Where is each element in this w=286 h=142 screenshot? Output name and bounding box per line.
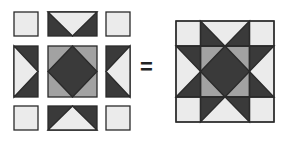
assembled-block — [176, 21, 274, 122]
exploded-block — [14, 12, 130, 130]
corner-square-bottom-right — [106, 106, 130, 130]
corner-square-bottom-left — [14, 106, 38, 130]
corner-square-top-left — [14, 12, 38, 36]
center-square-in-square — [48, 46, 97, 97]
flying-geese-right — [106, 46, 130, 97]
flying-geese-top — [48, 12, 97, 36]
equals-sign: = — [140, 56, 153, 78]
flying-geese-bottom — [48, 106, 97, 130]
corner-square-top-right — [106, 12, 130, 36]
flying-geese-left — [14, 46, 38, 97]
